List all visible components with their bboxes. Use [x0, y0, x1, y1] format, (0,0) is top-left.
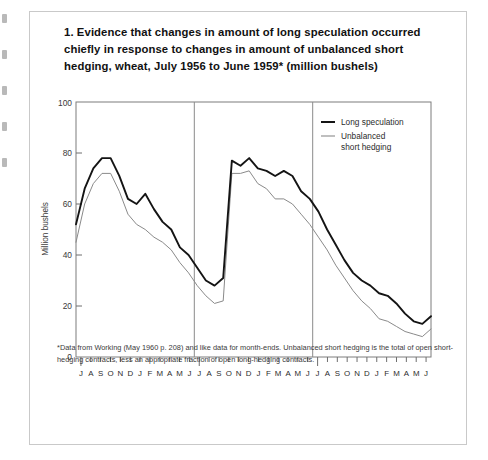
x-tick-label: O: [344, 369, 350, 378]
x-tick-label: A: [206, 369, 212, 378]
y-tick-40: 40: [63, 250, 73, 260]
x-tick-label: M: [157, 369, 164, 378]
x-tick-label: F: [148, 369, 153, 378]
legend-label-unbalanced-short-hedging-line2: short hedging: [341, 142, 392, 152]
y-tick-100: 100: [58, 98, 72, 108]
line-chart: 100 80 60 40 20 0 Million bushels: [30, 84, 468, 384]
x-tick-label: J: [197, 369, 201, 378]
figure-page: 1. Evidence that changes in amount of lo…: [0, 0, 488, 460]
figure-footnote: *Data from Working (May 1960 p. 208) and…: [57, 342, 453, 365]
legend-label-long-speculation: Long speculation: [341, 117, 404, 127]
x-tick-label: O: [107, 369, 113, 378]
chart-plot-area: 100 80 60 40 20 0 Million bushels: [30, 84, 468, 384]
x-tick-label: J: [138, 369, 142, 378]
legend-label-unbalanced-short-hedging-line1: Unbalanced: [341, 131, 386, 141]
x-tick-label: S: [335, 369, 340, 378]
x-tick-label: D: [127, 369, 133, 378]
x-tick-label: J: [375, 369, 379, 378]
x-tick-label: F: [266, 369, 271, 378]
x-tick-label: S: [98, 369, 103, 378]
page-edge-marks: [0, 6, 12, 186]
x-tick-label: F: [384, 369, 389, 378]
crop-year-label: 1957/58: [238, 383, 269, 384]
x-tick-label: J: [306, 369, 310, 378]
x-tick-label: N: [118, 369, 124, 378]
x-tick-label: M: [176, 369, 183, 378]
y-tick-20: 20: [63, 301, 73, 311]
x-tick-label: A: [404, 369, 410, 378]
x-tick-label: N: [354, 369, 360, 378]
x-tick-label: J: [256, 369, 260, 378]
x-tick-label: A: [167, 369, 173, 378]
x-tick-label: D: [246, 369, 252, 378]
x-tick-label: M: [275, 369, 282, 378]
figure-card: 1. Evidence that changes in amount of lo…: [29, 11, 467, 445]
x-tick-label: D: [364, 369, 370, 378]
x-tick-label: M: [295, 369, 302, 378]
x-tick-label: J: [187, 369, 191, 378]
x-tick-label: J: [316, 369, 320, 378]
x-tick-label: S: [216, 369, 221, 378]
x-tick-label: A: [88, 369, 94, 378]
x-tick-label: J: [79, 369, 83, 378]
crop-year-label: 1956/57: [120, 383, 151, 384]
y-tick-80: 80: [63, 148, 73, 158]
y-tick-60: 60: [63, 199, 73, 209]
crop-year-label: 1958/59: [356, 383, 387, 384]
x-tick-label: N: [236, 369, 242, 378]
x-tick-label: M: [413, 369, 420, 378]
x-tick-label: J: [424, 369, 428, 378]
x-tick-label: O: [226, 369, 232, 378]
y-axis-title: Million bushels: [41, 202, 50, 256]
x-tick-label: A: [285, 369, 291, 378]
x-tick-label: A: [325, 369, 331, 378]
figure-title: 1. Evidence that changes in amount of lo…: [64, 24, 454, 75]
x-tick-label: M: [393, 369, 400, 378]
